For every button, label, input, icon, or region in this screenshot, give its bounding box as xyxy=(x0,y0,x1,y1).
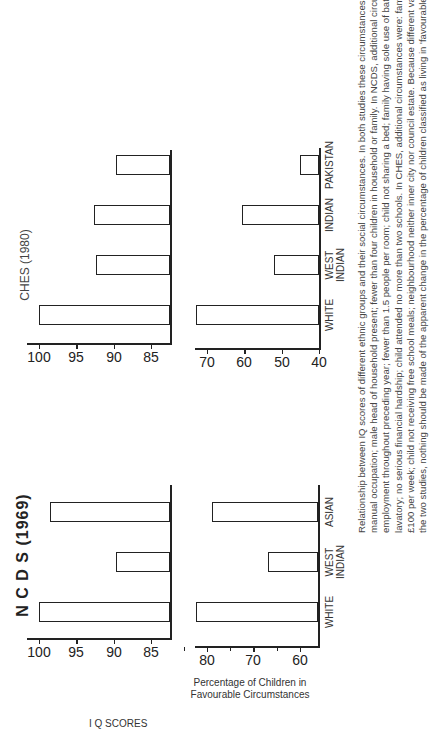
caption-line: Relationship between IQ scores of differ… xyxy=(356,13,368,533)
bar-white xyxy=(39,602,170,622)
minor-tick xyxy=(230,647,231,651)
category-label: PAKISTAN xyxy=(324,141,335,189)
bar-pakistan xyxy=(116,155,170,175)
minor-tick xyxy=(184,647,185,651)
value-axis-line xyxy=(195,349,319,351)
axis-tick-label: 100 xyxy=(27,349,50,365)
axis-tick-label: 85 xyxy=(143,644,159,660)
rotated-figure-page: N C D S (1969) CHES (1980) 859095100 607… xyxy=(0,0,438,733)
axis-tick-label: 60 xyxy=(237,354,253,370)
axis-tick-label: 50 xyxy=(274,354,290,370)
axis-tick-label: 100 xyxy=(27,644,50,660)
bar-white xyxy=(196,305,319,325)
bar-asian xyxy=(50,502,170,522)
bar-west-indian xyxy=(274,255,319,275)
axis-tick-label: 70 xyxy=(199,354,215,370)
axis-tick-label: 95 xyxy=(69,349,85,365)
bar-indian xyxy=(94,205,170,225)
value-axis-line xyxy=(27,639,170,641)
caption-line: the two studies, nothing should be made … xyxy=(417,13,429,533)
iq-axis-label: I Q SCORES xyxy=(89,718,147,730)
caption-line: employment throughout preceding year; fe… xyxy=(380,13,392,533)
bar-west-indian xyxy=(268,552,318,572)
category-axis-line xyxy=(319,148,321,350)
axis-tick-label: 60 xyxy=(292,652,308,668)
ches-title: CHES (1980) xyxy=(18,229,32,300)
axis-tick-label: 85 xyxy=(143,349,159,365)
bar-pakistan xyxy=(300,155,319,175)
axis-tick-label: 70 xyxy=(246,652,262,668)
bar-west-indian xyxy=(116,552,170,572)
caption-line: lavatory; no serious financial hardship;… xyxy=(393,13,405,533)
axis-tick-label: 90 xyxy=(106,349,122,365)
bar-white xyxy=(196,602,318,622)
axis-tick-label: 80 xyxy=(199,652,215,668)
category-axis-line xyxy=(170,150,172,345)
category-label: WHITE xyxy=(324,299,335,331)
value-axis-line xyxy=(27,344,170,346)
minor-tick xyxy=(277,647,278,651)
ncds-title: N C D S (1969) xyxy=(14,493,32,616)
axis-tick-label: 90 xyxy=(106,644,122,660)
bar-indian xyxy=(242,205,319,225)
bar-asian xyxy=(212,502,318,522)
category-label: WEST INDIAN xyxy=(324,248,346,282)
axis-tick-label: 40 xyxy=(311,354,327,370)
category-label: WHITE xyxy=(324,596,335,628)
caption-line: £100 per week; child not receiving free … xyxy=(405,13,417,533)
caption-line: manual occupation; male head of househol… xyxy=(368,13,380,533)
axis-tick-label: 95 xyxy=(69,644,85,660)
bar-west-indian xyxy=(96,255,170,275)
percentage-axis-label: Percentage of Children in Favourable Cir… xyxy=(191,677,310,701)
category-axis-line xyxy=(318,485,320,648)
category-label: ASIAN xyxy=(324,497,335,527)
category-axis-line xyxy=(170,485,172,640)
figure-caption: Relationship between IQ scores of differ… xyxy=(356,13,429,533)
category-label: WEST INDIAN xyxy=(324,545,346,579)
category-label: INDIAN xyxy=(324,198,335,232)
bar-white xyxy=(39,305,170,325)
